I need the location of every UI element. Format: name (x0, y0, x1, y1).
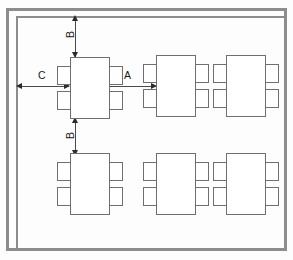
dimension-c-arrowhead-left (16, 83, 22, 89)
room-inner-wall-top (16, 16, 287, 18)
dimension-c-label: C (38, 70, 46, 81)
chair-left-back (57, 91, 71, 110)
chair-right-back (109, 187, 123, 206)
floor-plan-diagram: B B C A (0, 0, 293, 260)
chair-right-front (195, 64, 209, 83)
chair-left-front (143, 162, 157, 181)
room-inner-wall-left (16, 16, 18, 251)
chair-left-front (213, 162, 227, 181)
chair-right-back (265, 187, 279, 206)
table-r2-c3 (213, 153, 279, 215)
table-r1-c2 (143, 55, 209, 117)
chair-left-front (57, 66, 71, 85)
table-top (70, 57, 110, 119)
dimension-a-label: A (124, 70, 131, 81)
chair-right-back (195, 187, 209, 206)
chair-left-back (213, 89, 227, 108)
table-top (156, 55, 196, 117)
chair-right-back (265, 89, 279, 108)
chair-right-front (109, 66, 123, 85)
chair-left-back (57, 187, 71, 206)
table-r1-c1 (57, 57, 123, 119)
chair-left-back (143, 187, 157, 206)
chair-left-front (213, 64, 227, 83)
dimension-b-top-arrowhead-up (72, 15, 78, 21)
table-top (226, 55, 266, 117)
table-top (226, 153, 266, 215)
table-r2-c2 (143, 153, 209, 215)
chair-left-back (213, 187, 227, 206)
table-top (70, 153, 110, 215)
table-r1-c3 (213, 55, 279, 117)
chair-left-front (57, 162, 71, 181)
dimension-b-bottom-label: B (65, 129, 76, 141)
chair-right-back (109, 91, 123, 110)
table-r2-c1 (57, 153, 123, 215)
chair-left-back (143, 89, 157, 108)
chair-right-front (109, 162, 123, 181)
chair-right-front (265, 64, 279, 83)
table-top (156, 153, 196, 215)
chair-right-front (265, 162, 279, 181)
chair-right-back (195, 89, 209, 108)
dimension-b-top-label: B (65, 28, 76, 40)
chair-left-front (143, 64, 157, 83)
chair-right-front (195, 162, 209, 181)
